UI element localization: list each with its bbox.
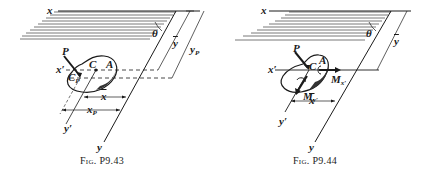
diagram-p9-44-drawing: [211, 0, 423, 172]
theta-label: θ: [366, 28, 372, 39]
figure-caption: Fig. P9.44: [293, 155, 337, 166]
x-axis-label: x: [47, 5, 53, 16]
y-p-label: yP: [190, 44, 199, 57]
x-bar-label: x: [101, 91, 107, 102]
figure-caption: Fig. P9.43: [80, 155, 124, 166]
y-axis-line: [315, 11, 391, 142]
theta-label: θ: [152, 28, 158, 39]
y-axis-label: y: [309, 142, 314, 153]
x-prime-label: x′: [56, 64, 65, 75]
x-prime-label: x′: [268, 64, 277, 75]
figure-p9-44: x θ y P x′ C A Mx′ My′ x y′ y Fig. P9.44: [211, 0, 423, 172]
force-p-label: P: [62, 46, 69, 57]
y-prime-label: y′: [64, 123, 72, 134]
y-prime-label: y′: [279, 116, 287, 127]
area-label: A: [106, 59, 113, 70]
moment-x-label: Mx′: [331, 74, 346, 87]
x-bar-label: x: [309, 95, 315, 106]
figure-p9-43: x θ y yP P x′ C A CP x xP y′ y Fig. P9.4…: [0, 0, 212, 172]
y-bar-label: y: [394, 36, 399, 47]
diagram-p9-43-drawing: [0, 0, 212, 172]
x-p-label: xP: [87, 104, 97, 117]
centroid-label: C: [309, 61, 316, 72]
force-p-label: P: [293, 43, 300, 54]
y-bar-label: y: [173, 38, 178, 49]
x-axis-label: x: [261, 5, 267, 16]
centroid-label: C: [89, 59, 96, 70]
y-axis-label: y: [97, 142, 102, 153]
area-label: A: [319, 55, 326, 66]
center-of-pressure-label: CP: [68, 72, 80, 85]
